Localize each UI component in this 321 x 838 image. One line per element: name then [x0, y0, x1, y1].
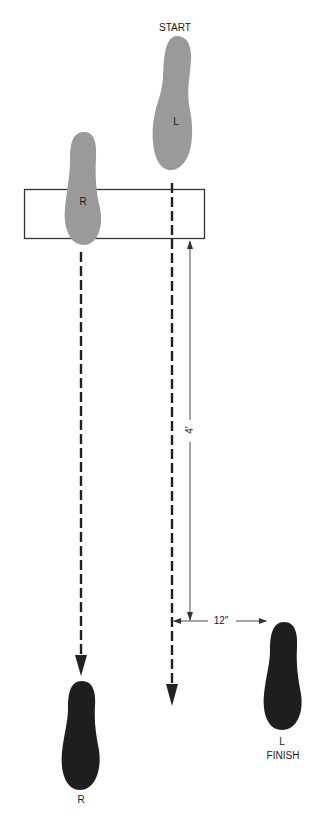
finish-left-footprint [264, 622, 302, 730]
lateral-dimension-arrow-right [259, 618, 267, 624]
start-right-footprint [65, 132, 101, 245]
lateral-dimension-arrow-left [173, 618, 181, 624]
start-label: START [152, 23, 198, 33]
finish-right-foot-label: R [73, 795, 89, 805]
start-left-footprint [153, 36, 193, 170]
footstep-diagram [0, 0, 321, 838]
finish-label: FINISH [258, 751, 308, 761]
forward-dimension-arrow-down [187, 612, 193, 621]
right-foot-arrowhead [75, 655, 87, 676]
lateral-distance-label: 12″ [206, 616, 236, 626]
finish-right-footprint [62, 681, 100, 790]
finish-left-foot-label: L [274, 737, 290, 747]
forward-dimension-arrow-up [187, 240, 193, 249]
start-right-foot-label: R [75, 197, 91, 207]
left-foot-arrowhead [166, 684, 178, 706]
start-left-foot-label: L [168, 117, 184, 127]
start-box [25, 190, 205, 239]
forward-distance-label: 4′ [185, 420, 195, 440]
